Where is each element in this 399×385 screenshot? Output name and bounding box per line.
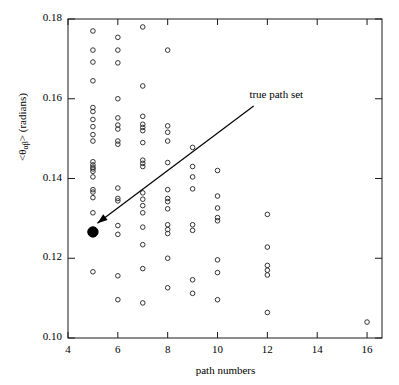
data-point [140, 191, 145, 196]
data-point [165, 207, 170, 212]
annotation-arrow [97, 106, 253, 223]
data-point [91, 60, 96, 65]
y-axis-label-tail: > (radians) [16, 93, 28, 141]
y-tick-label: 0.16 [32, 91, 62, 103]
data-point [265, 268, 270, 273]
data-point [91, 48, 96, 53]
data-point [215, 206, 220, 211]
data-point [140, 128, 145, 133]
data-point [140, 25, 145, 30]
data-point [190, 187, 195, 192]
data-point [116, 297, 121, 302]
y-tick-label: 0.12 [32, 250, 62, 262]
annotation-true-path-set: true path set [249, 88, 303, 100]
y-axis-label-subscript: αβ [21, 141, 30, 149]
data-point [215, 218, 220, 223]
axes-frame [68, 19, 382, 338]
data-point [365, 320, 370, 325]
data-point [215, 270, 220, 275]
data-point [91, 210, 96, 215]
data-point [165, 256, 170, 261]
data-point [165, 222, 170, 227]
data-point [265, 273, 270, 278]
data-point [140, 164, 145, 169]
data-point [165, 139, 170, 144]
data-point [140, 203, 145, 208]
data-point [215, 297, 220, 302]
x-axis-label-wrapper: path numbers [0, 364, 399, 376]
y-axis-label-main: <θ [16, 149, 28, 160]
x-tick-label: 10 [203, 343, 233, 355]
data-point [140, 197, 145, 202]
data-point [190, 222, 195, 227]
axis-ticks [68, 19, 382, 338]
data-point [165, 285, 170, 290]
data-points [88, 25, 370, 325]
data-point [91, 117, 96, 122]
data-point [190, 291, 195, 296]
data-point [165, 187, 170, 192]
plot-canvas [0, 0, 399, 385]
data-point [116, 116, 121, 121]
data-point [91, 270, 96, 275]
data-point [116, 232, 121, 237]
data-point [140, 225, 145, 230]
y-axis-label: <θαβ> (radians) [16, 52, 30, 202]
data-point [116, 61, 121, 66]
data-point [91, 139, 96, 144]
data-point [190, 175, 195, 180]
data-point [140, 114, 145, 119]
data-point [265, 263, 270, 268]
data-point [140, 301, 145, 306]
data-point [190, 145, 195, 150]
data-point [215, 194, 220, 199]
data-point [190, 277, 195, 282]
scatter-chart: 0.100.120.140.160.18 46810121416 <θαβ> (… [0, 0, 399, 385]
data-point [265, 245, 270, 250]
data-point [116, 96, 121, 101]
data-point [91, 195, 96, 200]
data-point [91, 175, 96, 180]
x-tick-label: 16 [352, 343, 382, 355]
data-point [265, 212, 270, 217]
true-path-point [88, 227, 98, 237]
data-point [91, 132, 96, 137]
data-point [116, 223, 121, 228]
x-tick-label: 6 [103, 343, 133, 355]
x-tick-label: 8 [153, 343, 183, 355]
data-point [165, 160, 170, 165]
data-point [190, 164, 195, 169]
y-tick-label: 0.14 [32, 171, 62, 183]
data-point [91, 29, 96, 34]
data-point [140, 140, 145, 145]
data-point [116, 48, 121, 53]
x-tick-label: 12 [252, 343, 282, 355]
data-point [140, 210, 145, 215]
data-point [165, 130, 170, 135]
data-point [215, 258, 220, 263]
data-point [165, 199, 170, 204]
data-point [140, 266, 145, 271]
x-tick-label: 4 [53, 343, 83, 355]
data-point [116, 273, 121, 278]
y-tick-label: 0.10 [32, 330, 62, 342]
data-point [165, 48, 170, 53]
data-point [140, 84, 145, 89]
data-point [116, 186, 121, 191]
data-point [165, 124, 170, 129]
data-point [91, 124, 96, 129]
data-point [215, 168, 220, 173]
data-point [140, 242, 145, 247]
data-point [190, 228, 195, 233]
data-point [91, 79, 96, 84]
data-point [116, 142, 121, 147]
data-point [265, 310, 270, 315]
data-point [116, 35, 121, 40]
x-tick-label: 14 [302, 343, 332, 355]
x-axis-label: path numbers [144, 364, 256, 376]
y-tick-label: 0.18 [32, 11, 62, 23]
